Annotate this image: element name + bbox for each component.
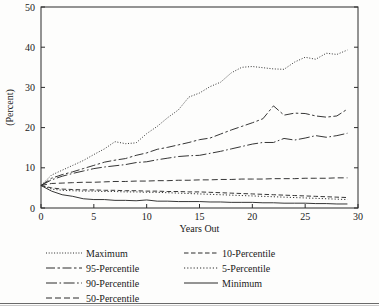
y-tick-label: 40 [25,42,35,53]
y-axis-title: (Percent) [4,89,16,126]
legend-label-50-percentile: 50-Percentile [86,293,140,304]
legend-label-10-percentile: 10-Percentile [222,248,276,259]
series-line-maximum [41,50,347,185]
series-line-minimum [41,185,347,203]
y-tick-label: 10 [25,162,35,173]
legend-label-maximum: Maximum [86,248,128,259]
x-tick-label: 20 [247,211,257,222]
x-tick-label: 30 [353,211,363,222]
series-line-10-percentile [41,185,347,197]
legend-label-95-percentile: 95-Percentile [86,263,140,274]
series-line-95-percentile [41,106,347,186]
chart-legend: Maximum95-Percentile90-Percentile50-Perc… [46,248,276,304]
chart-figure: 01020304050051015202530Years Out(Percent… [0,0,379,306]
tick-labels: 01020304050051015202530Years Out(Percent… [4,2,363,235]
data-series-group [41,50,347,204]
legend-label-5-percentile: 5-Percentile [222,263,271,274]
y-tick-label: 50 [25,2,35,13]
legend-label-90-percentile: 90-Percentile [86,278,140,289]
x-axis-title: Years Out [180,223,220,234]
y-tick-label: 30 [25,82,35,93]
y-tick-label: 20 [25,122,35,133]
x-tick-label: 25 [300,211,310,222]
series-line-5-percentile [41,185,347,199]
footer-rule [0,303,379,304]
x-tick-label: 10 [142,211,152,222]
x-tick-label: 15 [195,211,205,222]
plot-frame [41,7,358,208]
axes [41,7,358,208]
y-tick-label: 0 [30,203,35,214]
line-chart-svg: 01020304050051015202530Years Out(Percent… [0,0,379,306]
series-line-50-percentile [41,178,347,186]
x-tick-label: 5 [91,211,96,222]
x-tick-label: 0 [39,211,44,222]
legend-label-minimum: Minimum [222,278,262,289]
